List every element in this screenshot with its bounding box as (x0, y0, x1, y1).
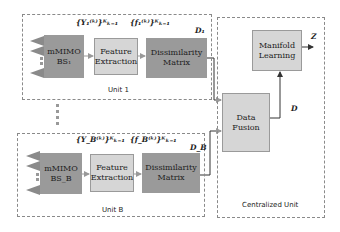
data-fusion-block: Data Fusion (222, 93, 270, 152)
manifold-learning-block: Manifold Learning (252, 30, 302, 71)
feature-extraction-1-block: Feature Extraction (94, 38, 138, 75)
unitB-label: Unit B (102, 206, 123, 214)
d-label: D (291, 104, 298, 113)
feature-extraction-B-block: Feature Extraction (90, 154, 134, 192)
dB-label: D_B (190, 143, 207, 152)
dissimilarity-matrix-1-block: Dissimilarity Matrix (146, 38, 207, 78)
z-label: Z (311, 32, 316, 41)
central-unit-label: Centralized Unit (242, 201, 298, 209)
mmimo-bsB-block: mMIMO BS_B (40, 153, 82, 194)
d1-label: D₁ (195, 26, 205, 35)
fB-label: {f_B⁽ᵏ⁾}ᴷₖ₌₁ (130, 135, 177, 144)
dissimilarity-matrix-B-block: Dissimilarity Matrix (142, 153, 200, 193)
yB-label: {Y_B⁽ᵏ⁾}ᴷₖ₌₁ (76, 135, 125, 144)
f1-label: {f₁⁽ᵏ⁾}ᴷₖ₌₁ (130, 18, 170, 27)
mmimo-bs1-block: mMIMO BS₁ (44, 35, 84, 78)
unit1-label: Unit 1 (108, 86, 129, 94)
y1-label: {Y₁⁽ᵏ⁾}ᴷₖ₌₁ (76, 18, 118, 27)
